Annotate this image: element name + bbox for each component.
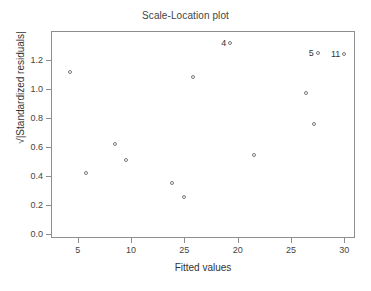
x-axis-tick-label: 5 bbox=[75, 245, 80, 255]
y-axis-tick-label: 0.2 bbox=[30, 200, 43, 210]
y-axis-tick-label: 0.4 bbox=[30, 171, 43, 181]
y-axis-tick bbox=[46, 89, 51, 90]
y-axis-tick-label: 1.2 bbox=[30, 55, 43, 65]
y-axis-tick-label: 0.6 bbox=[30, 142, 43, 152]
data-point bbox=[113, 142, 117, 146]
y-axis-tick bbox=[46, 205, 51, 206]
data-point bbox=[68, 70, 72, 74]
data-point bbox=[124, 158, 128, 162]
scale-location-plot: Scale-Location plot 51025202530 0.00.20.… bbox=[0, 0, 371, 291]
x-axis-tick bbox=[131, 238, 132, 243]
x-axis-tick-label: 30 bbox=[339, 245, 349, 255]
data-point-label: 11 bbox=[331, 49, 344, 59]
y-axis-tick bbox=[46, 234, 51, 235]
x-axis-tick bbox=[184, 238, 185, 243]
data-point bbox=[170, 181, 174, 185]
x-axis-tick bbox=[78, 238, 79, 243]
y-axis-tick bbox=[46, 176, 51, 177]
data-point-label: 5 bbox=[309, 48, 318, 58]
x-axis-tick-label: 25 bbox=[179, 245, 189, 255]
x-axis-tick bbox=[344, 238, 345, 243]
y-axis-title: √|Standardized residuals| bbox=[15, 0, 26, 198]
y-axis-tick bbox=[46, 147, 51, 148]
y-axis-tick-label: 0.0 bbox=[30, 229, 43, 239]
x-axis-tick-label: 25 bbox=[286, 245, 296, 255]
y-axis-tick-label: 1.0 bbox=[30, 84, 43, 94]
y-axis-tick-label: 0.8 bbox=[30, 113, 43, 123]
x-axis-tick bbox=[291, 238, 292, 243]
x-axis-title: Fitted values bbox=[51, 262, 355, 273]
y-axis-tick bbox=[46, 60, 51, 61]
x-axis-tick-label: 20 bbox=[233, 245, 243, 255]
x-axis-tick-label: 10 bbox=[126, 245, 136, 255]
data-point-label: 4 bbox=[221, 38, 230, 48]
plot-panel bbox=[51, 31, 355, 238]
x-axis-tick bbox=[238, 238, 239, 243]
page-title: Scale-Location plot bbox=[0, 10, 371, 21]
y-axis-tick bbox=[46, 118, 51, 119]
